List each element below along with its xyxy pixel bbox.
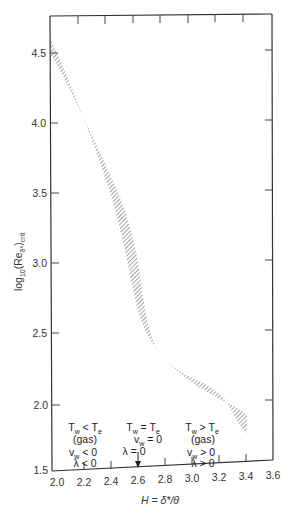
plot-frame xyxy=(50,14,273,471)
svg-text:λ > 0: λ > 0 xyxy=(191,457,214,469)
x-tick-label: 2.0 xyxy=(50,476,65,488)
y-tick-label: 3.5 xyxy=(32,187,47,199)
y-tick-label: 2.0 xyxy=(33,399,48,411)
x-tick-label: 2.8 xyxy=(158,473,173,485)
annotation-cold-wall: Tw < Te (gas) vw < 0 λ < 0 xyxy=(68,421,102,469)
x-tick-label: 3.0 xyxy=(185,472,200,484)
x-tick-label: 2.2 xyxy=(77,476,92,488)
y-axis-title: log10(Reδ*)crit xyxy=(12,233,26,291)
x-tick-label: 2.6 xyxy=(131,474,146,486)
y-tick-label: 4.0 xyxy=(31,117,46,129)
y-tick-label: 1.5 xyxy=(33,464,48,476)
right-axis-ticks xyxy=(265,50,272,400)
svg-text:λ < 0: λ < 0 xyxy=(73,457,96,469)
y-tick-label: 2.5 xyxy=(32,327,47,339)
annotation-adiabatic-wall: Tw = Te vw = 0 λ = 0 xyxy=(122,421,162,457)
svg-text:(gas): (gas) xyxy=(191,433,215,445)
y-tick-label: 4.5 xyxy=(31,47,46,59)
svg-text:λ = 0: λ = 0 xyxy=(122,445,145,457)
critical-reynolds-band xyxy=(48,34,247,433)
x-tick-label: 3.2 xyxy=(212,471,227,483)
x-tick-label: 3.4 xyxy=(239,470,254,482)
chart-canvas: 4.5 4.0 3.5 3.0 2.5 2.0 1.5 2.0 2.2 2.4 … xyxy=(0,0,296,513)
svg-text:(gas): (gas) xyxy=(73,433,97,445)
y-tick-label: 3.0 xyxy=(32,257,47,269)
x-tick-label: 3.6 xyxy=(266,469,281,481)
x-axis-title: H = δ*/θ xyxy=(141,494,179,506)
annotation-hot-wall: Tw > Te (gas) vw > 0 λ > 0 xyxy=(185,421,219,469)
x-tick-label: 2.4 xyxy=(104,475,119,487)
